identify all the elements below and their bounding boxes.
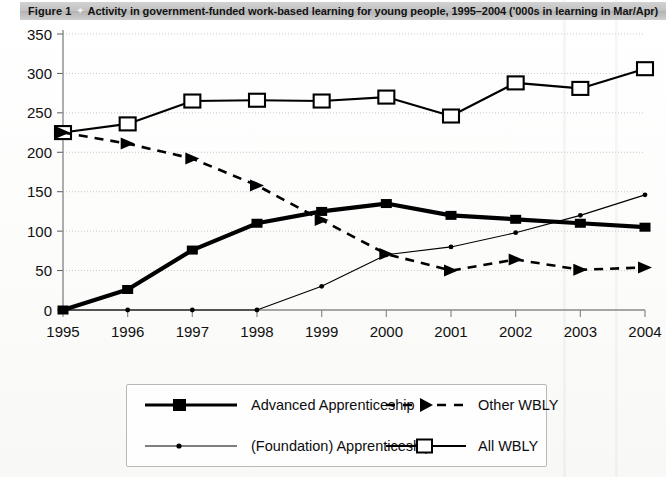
chart-plot-area: 0501001502002503003501995199619971998199…: [0, 22, 666, 352]
y-axis-tick-label: 350: [27, 26, 52, 43]
x-axis-tick-label: 1995: [46, 323, 79, 340]
filled-square-marker-swatch: [141, 395, 241, 415]
y-axis-tick-label: 0: [44, 302, 52, 319]
filled-triangle-marker-swatch: [384, 395, 468, 415]
y-axis-tick-label: 50: [35, 262, 52, 279]
series-advanced-apprenticeship: [58, 199, 651, 314]
x-axis-tick-label: 2001: [434, 323, 467, 340]
y-axis-tick-label: 250: [27, 104, 52, 121]
y-axis-tick-label: 100: [27, 223, 52, 240]
legend-item-other-wbly: Other WBLY: [370, 395, 546, 415]
legend-label: Other WBLY: [478, 397, 558, 413]
legend-label: All WBLY: [478, 438, 538, 454]
x-axis-tick-label: 1997: [176, 323, 209, 340]
y-axis-tick-label: 150: [27, 183, 52, 200]
legend-item-advanced-apprenticeship: Advanced Apprenticeship: [127, 395, 370, 415]
series-other-wbly: [56, 127, 652, 277]
legend-item-all-wbly: All WBLY: [370, 436, 546, 456]
x-axis-tick-label: 2003: [564, 323, 597, 340]
line-chart: 0501001502002503003501995199619971998199…: [0, 22, 666, 352]
series-foundation-apprenticeship: [61, 192, 648, 312]
chart-legend: Advanced Apprenticeship Other WBLY (Foun…: [126, 384, 547, 467]
y-axis-tick-label: 200: [27, 144, 52, 161]
y-axis-tick-label: 300: [27, 65, 52, 82]
x-axis-tick-label: 1999: [305, 323, 338, 340]
diamond-icon: ✦: [72, 6, 88, 16]
figure-header-bar: Figure 1 ✦ Activity in government-funded…: [20, 2, 666, 20]
figure-title: Activity in government-funded work-based…: [88, 5, 659, 17]
x-axis-tick-label: 1998: [240, 323, 273, 340]
x-axis-tick-label: 1996: [111, 323, 144, 340]
figure-number-label: Figure 1: [28, 5, 72, 17]
x-axis-tick-label: 2004: [628, 323, 661, 340]
legend-item-foundation-apprenticeship: (Foundation) Apprenticeship: [127, 436, 370, 456]
x-axis-tick-label: 2002: [499, 323, 532, 340]
open-square-marker-swatch: [384, 436, 468, 456]
x-axis-tick-label: 2000: [370, 323, 403, 340]
small-dot-marker-swatch: [141, 436, 241, 456]
